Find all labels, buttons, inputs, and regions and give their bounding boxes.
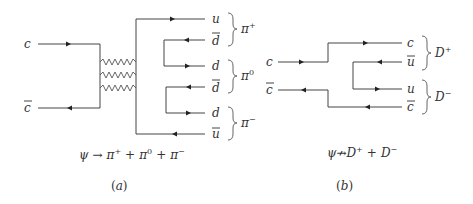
brace-icon: [228, 107, 237, 140]
arrow-left-icon: [301, 88, 306, 93]
arrow-left-icon: [365, 105, 370, 110]
quark-label-c: c: [407, 36, 414, 50]
quark-label-cbar: c: [266, 83, 273, 97]
feynman-diagrams: c c u d: [0, 0, 473, 204]
quark-label-dbar: d: [212, 34, 220, 48]
arrow-left-icon: [186, 85, 191, 90]
panel-b: c c c u u c D+ D− ψ↛D++D− (b): [266, 36, 451, 193]
arrow-right-icon: [186, 111, 191, 116]
caption-a: ψ→π++π0+π−: [79, 147, 185, 162]
caption-b: ψ↛D++D−: [327, 145, 397, 160]
arrow-right-icon: [170, 17, 175, 22]
quark-label-ubar: u: [407, 55, 415, 69]
arrow-left-icon: [184, 38, 189, 43]
quark-label-c: c: [24, 37, 31, 51]
brace-icon: [228, 60, 237, 93]
gluon-1: [100, 59, 136, 65]
arrow-left-icon: [172, 132, 177, 137]
meson-label-pi-minus: π−: [240, 115, 256, 130]
arrow-right-icon: [66, 42, 71, 47]
quark-label-d: d: [212, 106, 220, 120]
meson-label-pi-plus: π+: [240, 21, 256, 36]
arrow-right-icon: [375, 87, 380, 92]
arrow-right-icon: [185, 64, 190, 69]
quark-label-cbar: c: [407, 100, 414, 114]
brace-icon: [228, 13, 237, 46]
panel-tag-a: (a): [111, 179, 128, 193]
brace-icon: [422, 36, 431, 70]
meson-label-pi-zero: π0: [240, 68, 254, 83]
arrow-right-icon: [299, 60, 304, 65]
meson-label-d-minus: D−: [434, 89, 451, 104]
arrow-left-icon: [67, 106, 72, 111]
quark-label-cbar: c: [24, 101, 31, 115]
quark-label-ubar: u: [212, 127, 220, 141]
arrow-right-icon: [363, 41, 368, 46]
arrow-left-icon: [377, 60, 382, 65]
gluon-2: [100, 72, 136, 78]
panel-a: c c u d: [24, 12, 256, 193]
meson-label-d-plus: D+: [434, 45, 451, 60]
quark-label-d: d: [212, 59, 220, 73]
quark-label-dbar: d: [212, 81, 220, 95]
brace-icon: [422, 80, 431, 114]
panel-tag-b: (b): [336, 179, 353, 193]
quark-label-u: u: [212, 12, 220, 26]
quark-label-c: c: [266, 55, 273, 69]
gluon-3: [100, 85, 136, 91]
gluon-lines: [100, 59, 136, 91]
quark-label-u: u: [407, 82, 415, 96]
